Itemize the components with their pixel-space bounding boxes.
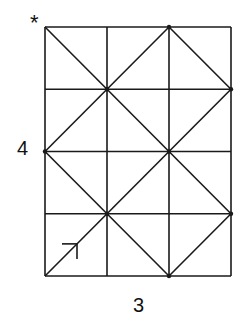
billiard-grid-diagram	[0, 0, 248, 329]
height-label: 4	[17, 138, 28, 158]
grid-lines	[45, 27, 231, 276]
width-label: 3	[133, 295, 144, 315]
corner-mark: *	[30, 12, 39, 34]
